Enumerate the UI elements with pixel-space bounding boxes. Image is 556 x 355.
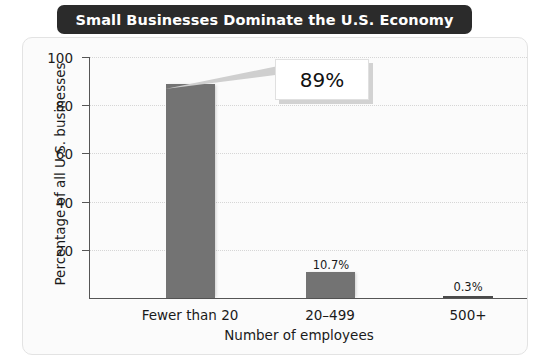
gridline-40 (89, 202, 527, 203)
callout-value-label: 89% (300, 68, 344, 92)
bar-500-plus[interactable] (443, 296, 493, 298)
x-axis-line (89, 298, 527, 299)
bar-value-500-plus: 0.3% (453, 280, 482, 294)
y-tick-label-60: 60 (56, 146, 73, 162)
gridline-20 (89, 250, 527, 251)
y-axis-line (89, 57, 90, 298)
y-tick-100: 100 (82, 57, 89, 58)
y-tick-60: 60 (82, 153, 89, 154)
callout-leader-line (165, 65, 283, 91)
chart-title-banner: Small Businesses Dominate the U.S. Econo… (57, 5, 472, 34)
bar-20-499[interactable] (306, 272, 355, 298)
chart-card: Percentage of all U.S. businesses Number… (22, 37, 528, 355)
x-category-label-500-plus: 500+ (449, 307, 486, 323)
plot-area: 100 80 60 40 20 10.7% 0.3% Fewer than 20… (89, 57, 529, 298)
bar-fewer-than-20[interactable] (166, 84, 215, 298)
y-tick-20: 20 (82, 250, 89, 251)
callout-89-percent: 89% (275, 59, 369, 100)
gridline-100 (89, 57, 527, 58)
x-category-label-20-499: 20–499 (305, 307, 355, 323)
chart-title: Small Businesses Dominate the U.S. Econo… (75, 12, 453, 28)
x-axis-title: Number of employees (89, 327, 509, 343)
y-tick-80: 80 (82, 105, 89, 106)
y-tick-label-100: 100 (47, 50, 73, 66)
x-category-label-fewer-than-20: Fewer than 20 (142, 307, 239, 323)
y-tick-label-80: 80 (56, 98, 73, 114)
y-tick-label-20: 20 (56, 243, 73, 259)
y-tick-40: 40 (82, 202, 89, 203)
gridline-80 (89, 105, 527, 106)
bar-value-20-499: 10.7% (313, 258, 350, 272)
gridline-60 (89, 153, 527, 154)
y-tick-label-40: 40 (56, 195, 73, 211)
